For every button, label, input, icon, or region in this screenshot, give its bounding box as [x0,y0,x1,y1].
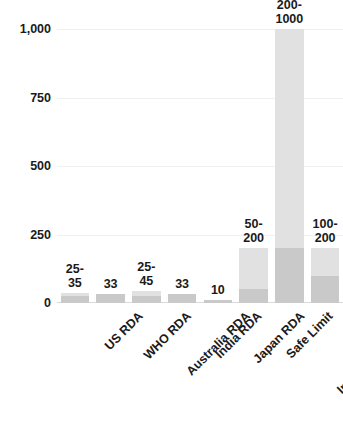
y-axis-tick-label: 500 [0,159,51,173]
x-axis-tick-label: US RDA [102,309,146,353]
bar-value-label: 100- 200 [302,217,343,245]
bar-segment-lower [132,296,161,303]
x-axis-tick-label: WHO RDA [141,309,194,362]
y-axis-tick-label: 750 [0,91,51,105]
x-axis-tick-labels: US RDAWHO RDAAustralia RDAIndia RDAJapan… [57,303,343,427]
bar-segment-lower [239,289,268,303]
bar-segment-lower [168,294,197,303]
x-axis-tick-label: Insulin Resistance [334,309,343,397]
bar[interactable] [275,29,304,303]
bar-segment-upper [275,29,304,248]
bar-value-label: 10 [195,283,241,297]
y-axis-tick-label: 0 [0,296,51,310]
bar[interactable] [239,248,268,303]
bar-segment-lower [96,294,125,303]
bar[interactable] [61,293,90,303]
bar-segment-upper [239,248,268,289]
bar-segment-lower [275,248,304,303]
bar-value-label: 200- 1000 [266,0,312,26]
bar[interactable] [132,291,161,303]
bar[interactable] [96,294,125,303]
bar-value-label: 50- 200 [231,217,277,245]
plot-area: 25- 353325- 45331050- 200200- 1000100- 2… [57,29,343,303]
bar-segment-lower [311,276,340,303]
y-axis-tick-label: 1,000 [0,22,51,36]
bar[interactable] [168,294,197,303]
chart-container: Added Sugar Intake Thresholds (g/day) 25… [0,0,343,427]
bar-segment-lower [61,296,90,303]
bar-segment-upper [311,248,340,275]
bar-group: 25- 353325- 45331050- 200200- 1000100- 2… [57,29,343,303]
y-axis-tick-label: 250 [0,228,51,242]
bar[interactable] [311,248,340,303]
